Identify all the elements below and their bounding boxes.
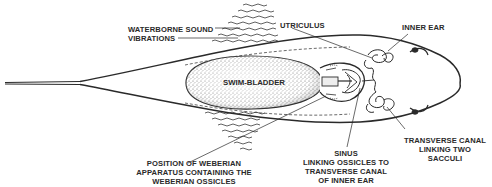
label-utriculus: UTRICULUS	[280, 21, 325, 30]
label-line: UTRICULUS	[280, 21, 325, 30]
sound-waves-top	[212, 4, 278, 42]
swim-bladder-label: SWIM-BLADDER	[223, 78, 285, 87]
label-inner-ear: INNER EAR	[402, 23, 445, 32]
label-line: OF INNER EAR	[296, 176, 396, 185]
label-line: LINKING OSSICLES TO	[296, 158, 396, 167]
label-transverse-canal: TRANSVERSE CANAL LINKING TWO SACCULI	[400, 136, 490, 163]
weberian-ossicles	[320, 63, 364, 101]
label-line: WEBERIAN OSSICLES	[134, 177, 254, 186]
label-line: WATERBORNE SOUND	[128, 25, 213, 34]
label-sinus: SINUS LINKING OSSICLES TO TRANSVERSE CAN…	[296, 149, 396, 185]
sound-waves-bottom	[205, 112, 265, 150]
label-weberian-apparatus: POSITION OF WEBERIAN APPARATUS CONTAININ…	[134, 159, 254, 186]
label-line: TRANSVERSE CANAL	[296, 167, 396, 176]
label-line: INNER EAR	[402, 23, 445, 32]
label-line: TRANSVERSE CANAL	[400, 136, 490, 145]
label-waterborne-sound-vibrations: WATERBORNE SOUND VIBRATIONS	[128, 25, 213, 43]
label-line: SACCULI	[400, 154, 490, 163]
label-line: POSITION OF WEBERIAN	[134, 159, 254, 168]
inner-ear	[362, 50, 394, 113]
label-line: SINUS	[296, 149, 396, 158]
label-line: APPARATUS CONTAINING THE	[134, 168, 254, 177]
label-line: LINKING TWO	[400, 145, 490, 154]
label-line: VIBRATIONS	[128, 34, 213, 43]
